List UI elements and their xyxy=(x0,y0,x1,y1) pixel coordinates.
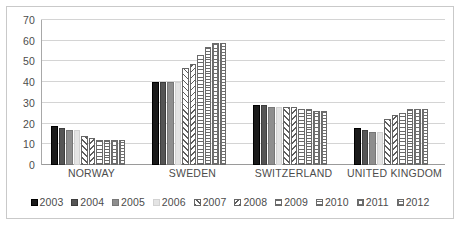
legend-label: 2004 xyxy=(80,196,104,208)
bar xyxy=(167,82,174,165)
bar xyxy=(253,105,260,165)
legend-label: 2012 xyxy=(406,196,430,208)
bar-chart-figure: 706050403020100 NORWAYSWEDENSWITZERLANDU… xyxy=(0,0,462,228)
bar xyxy=(74,130,81,165)
legend-label: 2010 xyxy=(325,196,349,208)
bar xyxy=(212,43,219,165)
y-tick-label: 20 xyxy=(23,118,35,130)
legend-item-2006[interactable]: 2006 xyxy=(153,196,186,208)
chart-legend: 2003200420052006200720082009201020112012 xyxy=(12,193,448,211)
bar xyxy=(152,82,159,165)
bar xyxy=(384,119,391,165)
legend-item-2009[interactable]: 2009 xyxy=(275,196,308,208)
legend-label: 2006 xyxy=(162,196,186,208)
legend-label: 2011 xyxy=(366,196,389,208)
bars-layer xyxy=(41,20,445,165)
bar xyxy=(160,82,167,165)
bar xyxy=(422,109,429,165)
legend-item-2004[interactable]: 2004 xyxy=(71,196,104,208)
legend-swatch-icon xyxy=(397,199,404,206)
bar xyxy=(414,109,421,165)
legend-label: 2003 xyxy=(40,196,64,208)
bar-group xyxy=(51,20,126,165)
legend-swatch-icon xyxy=(31,199,38,206)
bar xyxy=(119,140,126,165)
bar xyxy=(276,107,283,165)
legend-item-2012[interactable]: 2012 xyxy=(397,196,430,208)
y-tick-label: 30 xyxy=(23,97,35,109)
legend-label: 2009 xyxy=(284,196,308,208)
legend-swatch-icon xyxy=(71,199,78,206)
bar xyxy=(197,55,204,165)
bar xyxy=(59,128,66,165)
bar xyxy=(354,128,361,165)
bar xyxy=(51,126,58,165)
bar xyxy=(313,111,320,165)
bar xyxy=(104,140,111,165)
legend-swatch-icon xyxy=(112,199,119,206)
legend-label: 2005 xyxy=(121,196,145,208)
bar xyxy=(407,109,414,165)
bar xyxy=(291,107,298,165)
plot-area xyxy=(41,20,445,165)
bar xyxy=(283,107,290,165)
bar xyxy=(96,140,103,165)
bar-group xyxy=(253,20,328,165)
bar xyxy=(321,111,328,165)
bar xyxy=(298,109,305,165)
bar xyxy=(81,136,88,165)
legend-item-2007[interactable]: 2007 xyxy=(194,196,227,208)
x-axis-label-united-kingdom: UNITED KINGDOM xyxy=(347,167,442,179)
bar xyxy=(220,43,227,165)
bar xyxy=(190,64,197,166)
bar xyxy=(182,68,189,165)
legend-swatch-icon xyxy=(316,199,323,206)
y-tick-label: 0 xyxy=(29,159,35,171)
bar xyxy=(369,132,376,165)
bar-group xyxy=(152,20,227,165)
legend-item-2005[interactable]: 2005 xyxy=(112,196,145,208)
legend-swatch-icon xyxy=(194,199,201,206)
bar xyxy=(306,109,313,165)
bar xyxy=(175,82,182,165)
y-tick-label: 10 xyxy=(23,138,35,150)
bar xyxy=(268,107,275,165)
bar xyxy=(362,130,369,165)
bar-group xyxy=(354,20,429,165)
y-tick-label: 50 xyxy=(23,55,35,67)
y-tick-label: 40 xyxy=(23,76,35,88)
y-axis-tick-labels: 706050403020100 xyxy=(6,20,39,165)
bar xyxy=(205,47,212,165)
bar xyxy=(66,130,73,165)
bar xyxy=(111,140,118,165)
legend-label: 2008 xyxy=(243,196,267,208)
bar xyxy=(392,115,399,165)
y-tick-label: 70 xyxy=(23,14,35,26)
bar xyxy=(89,138,96,165)
legend-item-2008[interactable]: 2008 xyxy=(234,196,267,208)
legend-label: 2007 xyxy=(203,196,227,208)
x-axis-label-sweden: SWEDEN xyxy=(169,167,216,179)
y-tick-label: 60 xyxy=(23,35,35,47)
legend-item-2003[interactable]: 2003 xyxy=(31,196,64,208)
bar xyxy=(399,113,406,165)
x-axis-label-norway: NORWAY xyxy=(68,167,115,179)
bar xyxy=(377,132,384,165)
x-axis-label-switzerland: SWITZERLAND xyxy=(255,167,332,179)
legend-swatch-icon xyxy=(153,199,160,206)
legend-item-2011[interactable]: 2011 xyxy=(357,196,389,208)
legend-swatch-icon xyxy=(357,199,364,206)
bar xyxy=(261,105,268,165)
legend-item-2010[interactable]: 2010 xyxy=(316,196,349,208)
x-axis-category-labels: NORWAYSWEDENSWITZERLANDUNITED KINGDOM xyxy=(41,167,445,183)
legend-swatch-icon xyxy=(234,199,241,206)
legend-swatch-icon xyxy=(275,199,282,206)
